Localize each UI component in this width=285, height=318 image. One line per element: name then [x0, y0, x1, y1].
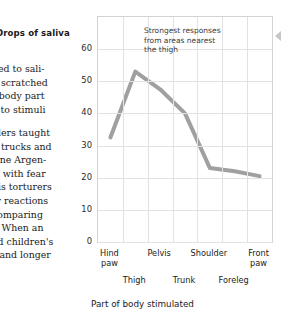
annotation-line: Strongest responses	[144, 26, 240, 36]
gridline-vertical	[247, 17, 248, 242]
figure-page: Drops of saliva ued to sali- n scratched…	[0, 0, 285, 318]
gridline-horizontal	[98, 146, 272, 147]
x-axis-tick-label-line: Trunk	[158, 276, 210, 286]
x-axis-tick-label: Pelvis	[133, 249, 185, 259]
x-axis-tick-label-line: Pelvis	[133, 249, 185, 259]
gridline-horizontal	[98, 81, 272, 82]
y-axis-tick-label: 0	[58, 236, 92, 246]
y-axis-tick-label: 60	[58, 43, 92, 53]
x-axis-tick-label-line: paw	[233, 259, 285, 269]
chart-annotation: Strongest responses from areas nearest t…	[144, 26, 240, 55]
x-axis-tick-label-line: Shoulder	[183, 249, 235, 259]
gridline-horizontal	[98, 210, 272, 211]
y-axis-tick-label: 50	[58, 75, 92, 85]
x-axis-tick-label: Shoulder	[183, 249, 235, 259]
gridline-horizontal	[98, 178, 272, 179]
x-axis-tick-label-line: Thigh	[108, 276, 160, 286]
x-axis-title: Part of body stimulated	[0, 299, 285, 309]
x-axis-tick-label: Trunk	[158, 276, 210, 286]
left-triangle-icon	[275, 31, 281, 41]
line-chart: 0102030405060 Strongest responses from a…	[0, 0, 285, 318]
gridline-horizontal	[98, 113, 272, 114]
gridline-horizontal	[98, 242, 272, 243]
y-axis-tick-label: 40	[58, 107, 92, 117]
x-axis-tick-label-line: paw	[83, 259, 135, 269]
x-axis-tick-label: Hindpaw	[83, 249, 135, 269]
y-axis-tick-label: 30	[58, 140, 92, 150]
annotation-line: from areas nearest	[144, 36, 240, 46]
x-axis-tick-label: Thigh	[108, 276, 160, 286]
y-axis-tick-label: 20	[58, 172, 92, 182]
x-axis-tick-label: Foreleg	[208, 276, 260, 286]
x-axis-tick-label: Frontpaw	[233, 249, 285, 269]
x-axis-tick-label-line: Foreleg	[208, 276, 260, 286]
annotation-line: the thigh	[144, 45, 240, 55]
gridline-vertical	[123, 17, 124, 242]
y-axis-tick-label: 10	[58, 204, 92, 214]
